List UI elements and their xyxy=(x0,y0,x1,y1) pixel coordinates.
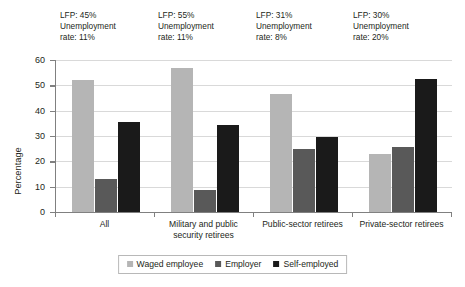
plot-area xyxy=(55,60,452,213)
x-axis-label-military-public-security-retirees: Military and public security retirees xyxy=(154,219,253,240)
bar-group xyxy=(353,60,452,212)
annotation-unemployment-word: Unemployment xyxy=(60,21,116,32)
x-tick-mark xyxy=(352,212,353,217)
annotation-unemployment-rate: rate: 20% xyxy=(353,32,409,43)
annotation-lfp: LFP: 55% xyxy=(158,10,214,21)
bar[interactable] xyxy=(270,94,292,212)
chart-annotations: LFP: 45% Unemployment rate: 11% LFP: 55%… xyxy=(0,10,465,54)
legend-item[interactable]: Self-employed xyxy=(273,259,338,269)
legend-swatch-icon xyxy=(215,261,221,267)
chart-legend: Waged employeeEmployerSelf-employed xyxy=(118,255,348,274)
y-tick-label: 10 xyxy=(35,182,45,191)
legend-item[interactable]: Employer xyxy=(215,259,261,269)
y-axis-title: Percentage xyxy=(13,123,23,219)
y-tick-label: 20 xyxy=(35,157,45,166)
legend-swatch-icon xyxy=(127,261,133,267)
bar-slot xyxy=(270,60,292,212)
annotation-unemployment-rate: rate: 8% xyxy=(256,32,312,43)
annotation-public-sector-retirees: LFP: 31% Unemployment rate: 8% xyxy=(256,10,312,44)
bar[interactable] xyxy=(369,154,391,212)
bar[interactable] xyxy=(194,190,216,212)
x-axis-ticks xyxy=(55,212,451,217)
annotation-unemployment-rate: rate: 11% xyxy=(60,32,116,43)
bar[interactable] xyxy=(392,147,414,212)
bar[interactable] xyxy=(316,137,338,212)
bar-slot xyxy=(316,60,338,212)
bar-slot xyxy=(293,60,315,212)
bar[interactable] xyxy=(415,79,437,212)
annotation-unemployment-word: Unemployment xyxy=(158,21,214,32)
y-tick-label: 50 xyxy=(35,81,45,90)
bar-chart-figure: LFP: 45% Unemployment rate: 11% LFP: 55%… xyxy=(0,0,465,287)
x-tick-mark xyxy=(253,212,254,217)
bar-slot xyxy=(95,60,117,212)
bar-slot xyxy=(392,60,414,212)
y-axis: Percentage 0102030405060 xyxy=(0,60,55,212)
x-axis-label-public-sector-retirees: Public-sector retirees xyxy=(253,219,352,240)
bar[interactable] xyxy=(293,149,315,212)
y-tick-label: 30 xyxy=(35,132,45,141)
bar-slot xyxy=(369,60,391,212)
bar-slot xyxy=(118,60,140,212)
annotation-unemployment-word: Unemployment xyxy=(353,21,409,32)
annotation-lfp: LFP: 31% xyxy=(256,10,312,21)
bar-slot xyxy=(72,60,94,212)
annotation-unemployment-rate: rate: 11% xyxy=(158,32,214,43)
legend-label: Self-employed xyxy=(283,259,338,269)
bar[interactable] xyxy=(171,68,193,212)
y-tick-label: 60 xyxy=(35,56,45,65)
x-axis-label-private-sector-retirees: Private-sector retirees xyxy=(352,219,451,240)
legend-item[interactable]: Waged employee xyxy=(127,259,204,269)
legend-swatch-icon xyxy=(273,261,279,267)
bar-groups xyxy=(56,60,452,212)
legend-label: Waged employee xyxy=(137,259,204,269)
bar[interactable] xyxy=(217,125,239,212)
x-tick-mark xyxy=(154,212,155,217)
bar[interactable] xyxy=(95,179,117,212)
annotation-military-public-security-retirees: LFP: 55% Unemployment rate: 11% xyxy=(158,10,214,44)
annotation-lfp: LFP: 45% xyxy=(60,10,116,21)
y-tick-label: 0 xyxy=(40,208,45,217)
bar-group xyxy=(254,60,353,212)
bar[interactable] xyxy=(72,80,94,212)
x-axis-labels: All Military and public security retiree… xyxy=(55,219,451,240)
annotation-lfp: LFP: 30% xyxy=(353,10,409,21)
annotation-all: LFP: 45% Unemployment rate: 11% xyxy=(60,10,116,44)
bar-slot xyxy=(194,60,216,212)
bar-group xyxy=(155,60,254,212)
bar-slot xyxy=(171,60,193,212)
annotation-unemployment-word: Unemployment xyxy=(256,21,312,32)
x-tick-mark xyxy=(55,212,56,217)
legend-label: Employer xyxy=(225,259,261,269)
bar-group xyxy=(56,60,155,212)
bar-slot xyxy=(217,60,239,212)
annotation-private-sector-retirees: LFP: 30% Unemployment rate: 20% xyxy=(353,10,409,44)
bar-slot xyxy=(415,60,437,212)
bar[interactable] xyxy=(118,122,140,212)
x-tick-mark xyxy=(451,212,452,217)
y-tick-label: 40 xyxy=(35,106,45,115)
x-axis-label-all: All xyxy=(55,219,154,240)
